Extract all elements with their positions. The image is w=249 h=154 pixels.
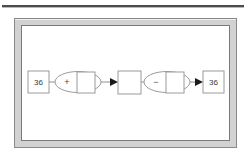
node-output-value-label: 36 [209, 78, 218, 87]
node-add-operator-label: + [64, 77, 69, 87]
diagram-frame-highlight [15, 19, 236, 20]
node-intermediate-value-box[interactable] [118, 71, 141, 94]
page-root: 36 + − 36 [0, 0, 249, 154]
flow-diagram: 36 + − 36 [22, 26, 229, 140]
node-input-value-label: 36 [34, 78, 43, 87]
arrowhead-to-output [195, 78, 203, 86]
diagram-canvas: 36 + − 36 [22, 26, 229, 140]
arrowhead-to-intermediate [110, 78, 118, 86]
top-horizontal-rule-shadow [2, 7, 244, 8]
node-add-operand-box[interactable] [77, 72, 95, 93]
node-subtract-operator-label: − [153, 77, 158, 87]
node-subtract-operand-box[interactable] [166, 72, 184, 93]
